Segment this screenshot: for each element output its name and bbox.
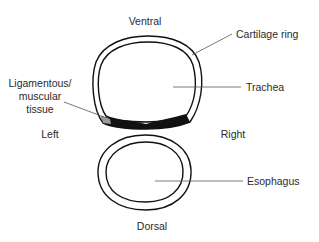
trachea xyxy=(93,36,202,129)
label-esophagus: Esophagus xyxy=(247,175,300,187)
label-ligamentous-3: tissue xyxy=(26,103,54,115)
trachea-esophagus-diagram: Ventral Left Right Dorsal Cartilage ring… xyxy=(0,0,319,242)
esophagus-inner-ring xyxy=(106,142,183,202)
label-right: Right xyxy=(221,128,246,140)
label-cartilage-ring: Cartilage ring xyxy=(236,28,299,40)
label-ventral: Ventral xyxy=(129,15,162,27)
label-dorsal: Dorsal xyxy=(137,220,167,232)
esophagus xyxy=(98,135,191,210)
label-ligamentous-1: Ligamentous/ xyxy=(8,77,71,89)
label-ligamentous-2: muscular xyxy=(19,90,62,102)
label-left: Left xyxy=(41,128,59,140)
esophagus-outer-ring xyxy=(98,135,191,210)
leader-ligamentous xyxy=(64,102,104,117)
label-trachea: Trachea xyxy=(246,81,284,93)
trachea-inner-ring xyxy=(98,42,195,122)
leader-cartilage-ring xyxy=(192,34,232,55)
